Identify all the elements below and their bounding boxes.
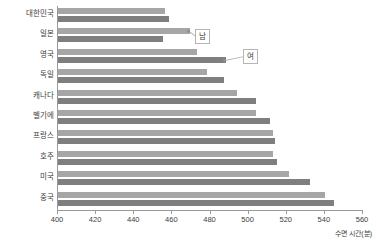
callout-male: 남 [195,29,210,44]
bar-female [58,16,169,22]
bar-group: 캐나다 [58,88,363,108]
bar-male [58,151,273,157]
bar-male [58,90,237,96]
bar-group: 대한민국 [58,6,363,26]
x-axis-tick-label: 420 [89,215,102,224]
x-axis-tick [324,210,325,214]
bar-group: 일본 [58,26,363,46]
bar-male [58,192,325,198]
bar-group: 중국 [58,190,363,210]
x-axis-tick-label: 460 [165,215,178,224]
x-axis-tick-label: 540 [318,215,331,224]
category-label: 미국 [0,171,54,183]
x-axis-tick-label: 480 [203,215,216,224]
x-axis-tick [57,210,58,214]
bar-female [58,118,270,124]
callout-female: 여 [243,49,258,64]
bar-group: 프랑스 [58,128,363,148]
sleep-time-bar-chart: 대한민국일본영국독일캐나다벨기에프랑스호주미국중국 40042044046048… [0,0,377,247]
x-axis-tick-label: 400 [51,215,64,224]
bar-female [58,179,310,185]
category-label: 프랑스 [0,130,54,142]
category-label: 대한민국 [0,8,54,20]
bar-female [58,98,256,104]
x-axis-tick-label: 520 [279,215,292,224]
category-label: 중국 [0,192,54,204]
bar-group: 영국 [58,47,363,67]
bar-female [58,77,224,83]
x-axis-tick [286,210,287,214]
category-label: 영국 [0,49,54,61]
x-axis-title: 수면 시간(분) [0,228,372,238]
bar-male [58,49,197,55]
bar-male [58,110,256,116]
bar-group: 벨기에 [58,108,363,128]
bar-male [58,171,289,177]
category-label: 호주 [0,151,54,163]
bar-male [58,8,165,14]
x-axis-tick [210,210,211,214]
category-label: 일본 [0,28,54,40]
category-label: 벨기에 [0,110,54,122]
bar-male [58,28,190,34]
bar-female [58,138,275,144]
x-axis-tick-label: 440 [127,215,140,224]
bar-male [58,69,207,75]
bar-group: 미국 [58,169,363,189]
bar-male [58,130,273,136]
bar-female [58,200,334,206]
bar-group: 호주 [58,149,363,169]
x-axis-tick [171,210,172,214]
x-axis-tick [248,210,249,214]
x-axis-tick-label: 560 [356,215,369,224]
bar-female [58,159,277,165]
plot-area: 대한민국일본영국독일캐나다벨기에프랑스호주미국중국 [57,6,363,210]
bar-female [58,36,163,42]
bar-group: 독일 [58,67,363,87]
x-axis-tick [95,210,96,214]
category-label: 캐나다 [0,90,54,102]
category-label: 독일 [0,69,54,81]
x-axis-tick [133,210,134,214]
bar-female [58,57,226,63]
x-axis-tick [362,210,363,214]
x-axis-line: 400420440460480500520540560 [57,210,362,211]
x-axis-tick-label: 500 [241,215,254,224]
